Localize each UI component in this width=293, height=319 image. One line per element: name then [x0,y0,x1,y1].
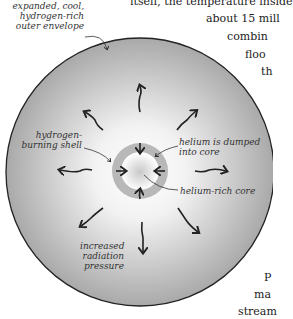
label-helium-dumped: helium is dumped into core [179,137,260,157]
helium-core [121,152,159,190]
label-hydrogen-shell: hydrogen- burning shell [20,130,82,150]
label-outer-envelope: expanded, cool, hydrogen-rich outer enve… [2,1,84,31]
body-text-bottom-line-3: stream [238,303,277,319]
body-text-bottom-line-1: P [264,269,271,287]
body-text-top-line-3: combin [227,28,268,46]
body-text-bottom-line-2: ma [254,286,271,304]
body-text-top-line-5: th [261,63,273,81]
body-text-top-line-4: floo [245,46,266,64]
body-text-top-line-2: about 15 mill [206,10,280,28]
label-radiation-pressure: increased radiation pressure [80,241,124,271]
label-helium-core: helium-rich core [180,186,255,196]
